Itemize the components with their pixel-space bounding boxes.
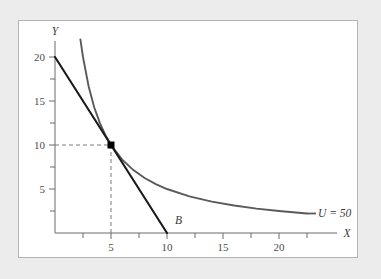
x-axis-title: X xyxy=(342,227,351,239)
economics-indifference-chart: 20 15 10 5 5 10 15 20 Y X B xyxy=(19,21,357,257)
budget-line-label: B xyxy=(175,214,182,226)
y-tick-label-20: 20 xyxy=(34,51,46,63)
x-tick-label-20: 20 xyxy=(274,241,286,253)
y-tick-label-10: 10 xyxy=(34,139,46,151)
x-tick-label-10: 10 xyxy=(162,241,174,253)
y-tick-label-15: 15 xyxy=(34,95,46,107)
indifference-curve-label: U = 50 xyxy=(318,207,352,219)
indifference-curve-u50 xyxy=(80,39,307,213)
y-axis-title: Y xyxy=(52,25,60,37)
x-tick-label-5: 5 xyxy=(108,241,114,253)
figure-root: 20 15 10 5 5 10 15 20 Y X B xyxy=(0,0,381,279)
tangency-point-marker xyxy=(108,142,115,149)
y-tick-label-5: 5 xyxy=(40,183,46,195)
x-tick-label-15: 15 xyxy=(218,241,230,253)
figure-panel: 20 15 10 5 5 10 15 20 Y X B xyxy=(18,20,358,258)
